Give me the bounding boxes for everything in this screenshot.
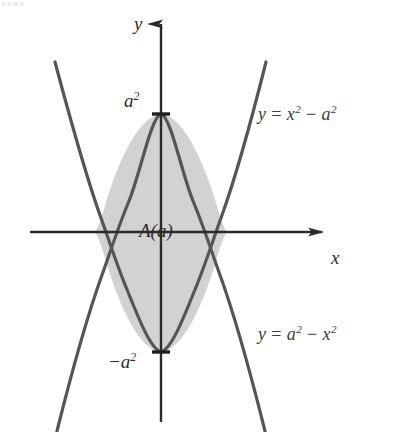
y-tick-label-a-squared: a2 <box>124 91 139 110</box>
parabola-region-plot <box>0 0 396 432</box>
eq-lower-term2: x <box>323 324 331 344</box>
eq-upper-lhs: y <box>258 104 266 124</box>
tick-base-negative: −a <box>108 351 130 372</box>
eq-lower-equals: = <box>271 324 282 344</box>
eq-lower-operator: − <box>307 324 318 344</box>
upper-parabola-equation-label: y = x2 − a2 <box>258 105 337 123</box>
eq-upper-equals: = <box>271 104 282 124</box>
eq-upper-term1-exp: 2 <box>295 103 301 115</box>
y-tick-label-negative-a-squared: −a2 <box>108 352 136 371</box>
lower-parabola-equation-label: y = a2 − x2 <box>258 325 337 343</box>
tick-exponent-positive: 2 <box>134 90 140 103</box>
eq-lower-term2-exp: 2 <box>331 323 337 335</box>
eq-upper-term2-exp: 2 <box>331 103 337 115</box>
eq-lower-term1-exp: 2 <box>296 323 302 335</box>
eq-upper-operator: − <box>306 104 317 124</box>
eq-lower-term1: a <box>287 324 296 344</box>
eq-upper-term1: x <box>287 104 295 124</box>
region-area-label: A(a) <box>139 221 173 240</box>
eq-upper-term2: a <box>322 104 331 124</box>
tick-exponent-negative: 2 <box>130 351 136 364</box>
y-axis-label: y <box>134 14 142 33</box>
tick-base-positive: a <box>124 90 134 111</box>
x-axis-label: x <box>331 248 339 267</box>
eq-lower-lhs: y <box>258 324 266 344</box>
figure-container: a a a a y x a2 −a2 <box>0 0 396 432</box>
